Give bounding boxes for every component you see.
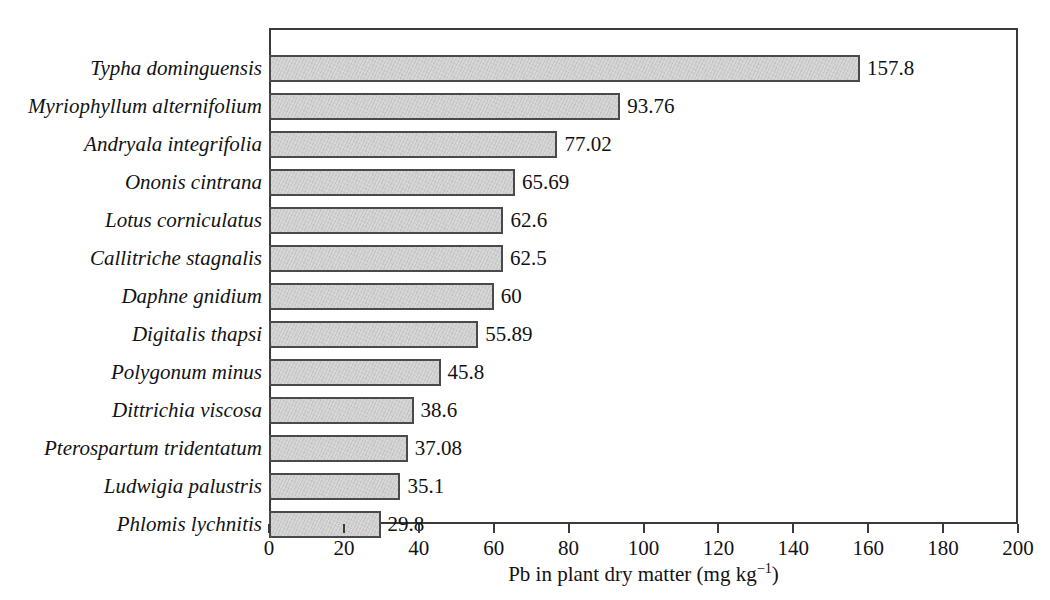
bar-value-label: 93.76 — [627, 95, 674, 118]
category-label: Daphne gnidium — [0, 285, 262, 308]
x-axis-title-exponent: −1 — [757, 560, 772, 576]
bar-value-label: 62.6 — [510, 209, 547, 232]
category-label: Pterospartum tridentatum — [0, 437, 262, 460]
x-tick-mark — [717, 524, 719, 533]
x-tick-mark — [1017, 524, 1019, 533]
x-tick-mark — [418, 524, 420, 533]
bar-row: 45.8 — [269, 354, 1018, 392]
bar-value-label: 35.1 — [407, 475, 444, 498]
bar-value-label: 55.89 — [485, 323, 532, 346]
x-tick-mark — [343, 524, 345, 533]
bar-row: 65.69 — [269, 164, 1018, 202]
category-label: Dittrichia viscosa — [0, 399, 262, 422]
bar-value-label: 65.69 — [522, 171, 569, 194]
x-tick-label: 120 — [703, 536, 735, 560]
bar-value-label: 38.6 — [421, 399, 458, 422]
x-tick-mark — [792, 524, 794, 533]
bar-value-label: 37.08 — [415, 437, 462, 460]
bar-row: 62.6 — [269, 202, 1018, 240]
bar — [269, 169, 515, 196]
category-label: Ludwigia palustris — [0, 475, 262, 498]
category-axis-labels: Typha dominguensisMyriophyllum alternifo… — [0, 28, 262, 524]
bar-row: 62.5 — [269, 240, 1018, 278]
x-tick-mark — [268, 524, 270, 533]
x-tick-label: 140 — [778, 536, 810, 560]
bar-value-label: 62.5 — [510, 247, 547, 270]
bar-row: 55.89 — [269, 316, 1018, 354]
x-tick-mark — [493, 524, 495, 533]
bars-layer: 157.893.7677.0265.6962.662.56055.8945.83… — [269, 28, 1018, 524]
category-label: Digitalis thapsi — [0, 323, 262, 346]
x-tick-label: 60 — [483, 536, 504, 560]
bar — [269, 131, 557, 158]
x-tick-mark — [568, 524, 570, 533]
x-tick-label: 20 — [333, 536, 354, 560]
bar-value-label: 157.8 — [867, 57, 914, 80]
bar — [269, 283, 494, 310]
bar — [269, 473, 400, 500]
x-tick-label: 100 — [628, 536, 660, 560]
category-label: Typha dominguensis — [0, 57, 262, 80]
category-label: Phlomis lychnitis — [0, 513, 262, 536]
category-label: Polygonum minus — [0, 361, 262, 384]
x-axis-title: Pb in plant dry matter (mg kg−1) — [269, 562, 1018, 586]
x-tick-label: 80 — [558, 536, 579, 560]
category-label: Callitriche stagnalis — [0, 247, 262, 270]
x-tick-label: 40 — [408, 536, 429, 560]
bar-row: 60 — [269, 278, 1018, 316]
bar — [269, 359, 441, 386]
bar-row: 93.76 — [269, 88, 1018, 126]
x-tick-label: 200 — [1002, 536, 1034, 560]
category-label: Lotus corniculatus — [0, 209, 262, 232]
bar-row: 38.6 — [269, 392, 1018, 430]
x-tick-label: 0 — [264, 536, 275, 560]
bar — [269, 55, 860, 82]
x-tick-mark — [942, 524, 944, 533]
category-label: Myriophyllum alternifolium — [0, 95, 262, 118]
bar — [269, 397, 414, 424]
bar-row: 157.8 — [269, 50, 1018, 88]
bar — [269, 93, 620, 120]
x-tick-label: 180 — [927, 536, 959, 560]
bar — [269, 435, 408, 462]
chart-page: Typha dominguensisMyriophyllum alternifo… — [0, 0, 1050, 600]
bar-value-label: 60 — [501, 285, 522, 308]
x-tick-label: 160 — [852, 536, 884, 560]
category-label: Ononis cintrana — [0, 171, 262, 194]
category-label: Andryala integrifolia — [0, 133, 262, 156]
bar-value-label: 77.02 — [564, 133, 611, 156]
bar — [269, 321, 478, 348]
x-tick-mark — [867, 524, 869, 533]
bar-row: 77.02 — [269, 126, 1018, 164]
bar-row: 35.1 — [269, 468, 1018, 506]
bar-value-label: 45.8 — [448, 361, 485, 384]
x-tick-mark — [643, 524, 645, 533]
bar — [269, 245, 503, 272]
bar — [269, 207, 503, 234]
bar-row: 37.08 — [269, 430, 1018, 468]
